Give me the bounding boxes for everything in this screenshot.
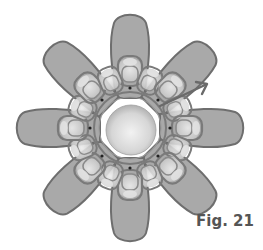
central-sphere — [106, 105, 156, 155]
figure-caption: Fig. 21 — [196, 212, 254, 230]
